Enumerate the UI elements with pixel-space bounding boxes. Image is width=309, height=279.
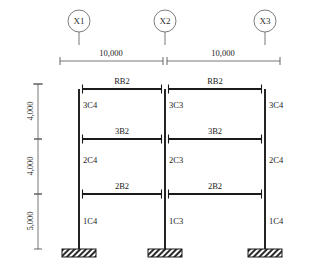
grid-bubble-label-x1: X1 — [74, 16, 85, 26]
beam-label-3b2-2: 3B2 — [115, 126, 129, 136]
vdim-label-1: 4,000 — [25, 156, 35, 175]
column-label-2c3-4: 2C3 — [169, 155, 183, 165]
column-label-2c4-7: 2C4 — [269, 155, 284, 165]
frame-elevation-drawing: X1X2X3 10,00010,000 4,0004,0005,000 RB2R… — [0, 0, 309, 279]
drawing-canvas: X1X2X3 10,00010,000 4,0004,0005,000 RB2R… — [0, 0, 309, 279]
column-label-1c4-8: 1C4 — [269, 216, 284, 226]
column-label-3c4-6: 3C4 — [269, 100, 284, 110]
grid-bubbles-group: X1X2X3 — [68, 10, 276, 45]
support-footing-x1 — [62, 249, 96, 257]
vdim-label-0: 4,000 — [25, 101, 35, 120]
vdim-label-2: 5,000 — [25, 211, 35, 230]
horizontal-dimensions-group: 10,00010,000 — [60, 48, 280, 65]
vertical-dimensions-group: 4,0004,0005,000 — [25, 84, 43, 249]
column-label-3c4-0: 3C4 — [83, 100, 98, 110]
supports-group — [62, 249, 282, 257]
column-label-2c4-1: 2C4 — [83, 155, 98, 165]
beam-label-rb2-0: RB2 — [114, 76, 130, 86]
beam-label-2b2-4: 2B2 — [115, 181, 129, 191]
column-label-1c4-2: 1C4 — [83, 216, 98, 226]
support-footing-x3 — [248, 249, 282, 257]
support-footing-x2 — [148, 249, 182, 257]
labels-group: RB2RB23B23B22B22B23C42C41C43C32C31C33C42… — [83, 76, 284, 226]
beam-label-2b2-5: 2B2 — [208, 181, 222, 191]
grid-bubble-label-x2: X2 — [160, 16, 171, 26]
column-label-3c3-3: 3C3 — [169, 100, 183, 110]
beam-label-rb2-1: RB2 — [207, 76, 223, 86]
hdim-label-0: 10,000 — [99, 48, 122, 58]
grid-bubble-label-x3: X3 — [260, 16, 271, 26]
column-label-1c3-5: 1C3 — [169, 216, 183, 226]
hdim-label-1: 10,000 — [211, 48, 234, 58]
beam-label-3b2-3: 3B2 — [208, 126, 222, 136]
